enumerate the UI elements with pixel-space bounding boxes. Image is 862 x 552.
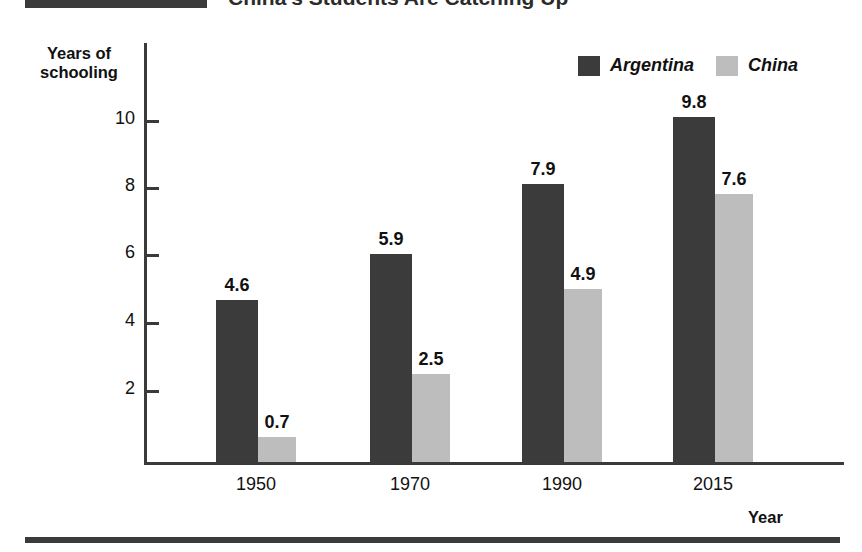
bar-group-1990: 7.9 4.9 1990 <box>522 43 674 462</box>
y-tick-label-10: 10 <box>115 108 135 129</box>
figure-header: FIGURE 8.7 China's Students Are Catching… <box>0 0 862 20</box>
y-axis-title: Years of schooling <box>18 44 140 82</box>
bar-value-china-1950: 0.7 <box>264 412 289 433</box>
figure-title: China's Students Are Catching Up <box>228 0 568 10</box>
y-tick-label-6: 6 <box>125 242 135 263</box>
bar-value-argentina-1990: 7.9 <box>530 159 555 180</box>
x-tick-label-1950: 1950 <box>236 474 276 495</box>
y-axis-title-line1: Years of <box>47 44 111 62</box>
bar-china-1990[interactable]: 4.9 <box>564 289 602 462</box>
x-axis-line <box>144 462 844 465</box>
y-tick-label-2: 2 <box>125 378 135 399</box>
bar-china-1950[interactable]: 0.7 <box>258 437 296 462</box>
y-tick-4: 4 <box>144 322 159 325</box>
figure-container: FIGURE 8.7 China's Students Are Catching… <box>0 0 862 552</box>
x-axis-title: Year <box>748 508 783 527</box>
header-rule <box>25 0 207 8</box>
bar-value-argentina-1950: 4.6 <box>224 275 249 296</box>
x-tick-label-2015: 2015 <box>693 474 733 495</box>
bar-china-1970[interactable]: 2.5 <box>412 374 450 462</box>
bar-group-1950: 4.6 0.7 1950 <box>216 43 368 462</box>
bar-argentina-1950[interactable]: 4.6 <box>216 300 258 462</box>
y-tick-10: 10 <box>144 120 159 123</box>
bar-china-2015[interactable]: 7.6 <box>715 194 753 462</box>
bar-value-china-1990: 4.9 <box>570 264 595 285</box>
y-tick-label-8: 8 <box>125 175 135 196</box>
y-tick-8: 8 <box>144 187 159 190</box>
bar-value-china-2015: 7.6 <box>721 169 746 190</box>
bar-value-china-1970: 2.5 <box>418 349 443 370</box>
x-tick-label-1990: 1990 <box>542 474 582 495</box>
bar-argentina-1970[interactable]: 5.9 <box>370 254 412 462</box>
plot-area: 10 8 6 4 2 4.6 0.7 1950 5.9 <box>144 43 844 465</box>
y-tick-label-4: 4 <box>125 310 135 331</box>
y-tick-2: 2 <box>144 390 159 393</box>
bar-argentina-1990[interactable]: 7.9 <box>522 184 564 462</box>
bar-value-argentina-2015: 9.8 <box>681 92 706 113</box>
x-tick-label-1970: 1970 <box>390 474 430 495</box>
y-axis-title-line2: schooling <box>40 63 118 81</box>
bar-argentina-2015[interactable]: 9.8 <box>673 117 715 462</box>
bottom-rule <box>25 537 840 543</box>
bar-group-1970: 5.9 2.5 1970 <box>370 43 522 462</box>
bar-group-2015: 9.8 7.6 2015 <box>673 43 825 462</box>
bar-value-argentina-1970: 5.9 <box>378 229 403 250</box>
y-tick-6: 6 <box>144 254 159 257</box>
